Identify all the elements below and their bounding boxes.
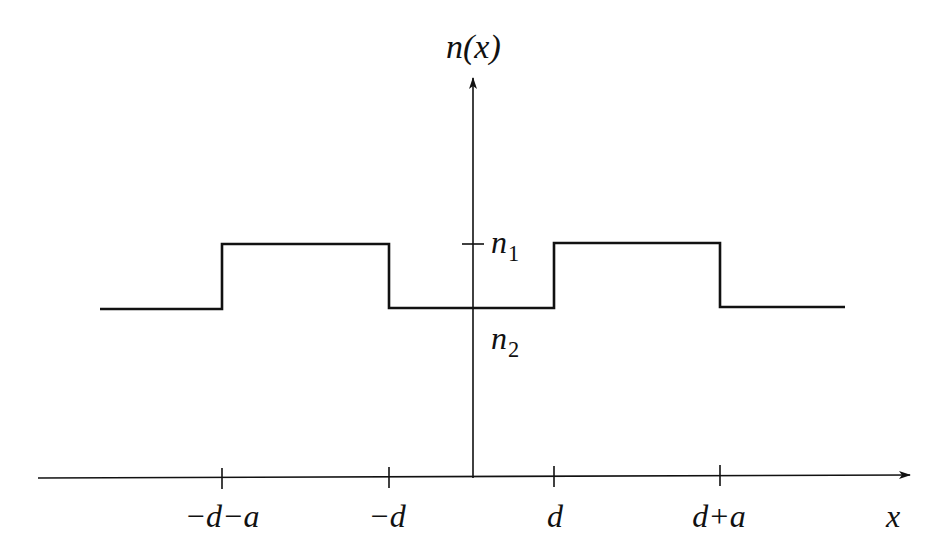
diagram-canvas <box>0 0 938 547</box>
n2-symbol: n <box>491 320 507 356</box>
tick-label-minus-d-minus-a: −d−a <box>184 500 259 532</box>
tick-label-minus-d: −d <box>368 500 406 532</box>
x-axis <box>38 475 910 478</box>
n2-subscript: 2 <box>508 337 519 362</box>
y-axis-label: n(x) <box>446 30 501 64</box>
index-profile-diagram: n(x) n1 n2 −d−a −d d d+a x <box>0 0 938 547</box>
y-axis-label-text: n(x) <box>446 28 501 65</box>
tick-label-d: d <box>547 500 563 532</box>
n1-subscript: 1 <box>508 241 519 266</box>
n1-label: n1 <box>491 226 519 265</box>
tick-label-d-plus-a: d+a <box>692 500 746 532</box>
n1-symbol: n <box>491 224 507 260</box>
n2-label: n2 <box>491 322 519 361</box>
x-axis-label: x <box>886 500 900 532</box>
